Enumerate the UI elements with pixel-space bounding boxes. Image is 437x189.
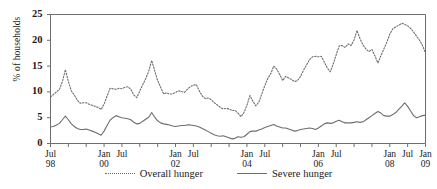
y-tick-marks bbox=[47, 15, 51, 144]
y-tick-label: 5 bbox=[21, 112, 43, 122]
legend-label-overall-hunger: Overall hunger bbox=[140, 168, 203, 179]
axis-frame bbox=[51, 15, 426, 144]
x-tick-month: Jan bbox=[419, 149, 432, 159]
series-line-severe-hunger bbox=[51, 103, 426, 139]
y-tick-label: 0 bbox=[21, 138, 43, 148]
series-line-overall-hunger bbox=[51, 23, 426, 116]
chart-figure: % of households 0510152025 Jul98Jan00Jul… bbox=[0, 0, 437, 189]
y-tick-label: 20 bbox=[21, 35, 43, 45]
chart-legend: Overall hunger Severe hunger bbox=[0, 168, 437, 179]
x-tick-month: Jul bbox=[331, 149, 342, 159]
legend-label-severe-hunger: Severe hunger bbox=[272, 168, 332, 179]
x-tick-label: Jul98 bbox=[35, 149, 67, 170]
legend-item-severe-hunger: Severe hunger bbox=[237, 168, 332, 179]
y-tick-label: 10 bbox=[21, 86, 43, 96]
x-tick-month: Jul bbox=[116, 149, 127, 159]
x-tick-label: Jul bbox=[320, 149, 352, 160]
legend-swatch-solid-icon bbox=[237, 173, 267, 174]
y-tick-label: 25 bbox=[21, 9, 43, 19]
legend-swatch-dotted-icon bbox=[105, 173, 135, 174]
legend-item-overall-hunger: Overall hunger bbox=[105, 168, 203, 179]
y-tick-label: 15 bbox=[21, 61, 43, 71]
x-tick-month: Jul bbox=[259, 149, 270, 159]
x-tick-label: Jul bbox=[106, 149, 138, 160]
x-tick-label: Jul bbox=[177, 149, 209, 160]
x-tick-marks bbox=[51, 144, 426, 148]
x-tick-label: Jul bbox=[249, 149, 281, 160]
x-tick-month: Jul bbox=[45, 149, 56, 159]
x-tick-month: Jul bbox=[188, 149, 199, 159]
x-tick-label: Jan09 bbox=[410, 149, 437, 170]
